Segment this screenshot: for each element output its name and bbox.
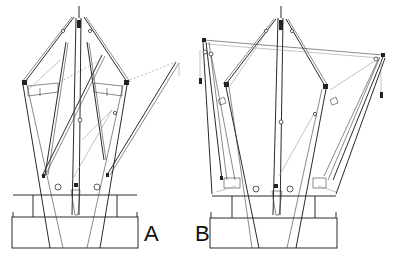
panel-b-rigging xyxy=(216,30,376,192)
panel-b-left-boom xyxy=(199,38,259,194)
panel-b-right-boom xyxy=(287,53,385,194)
panel-b-label: B xyxy=(195,223,210,245)
panel-a-mast xyxy=(71,6,82,215)
crane-drawing xyxy=(0,0,397,254)
panel-b-drawing xyxy=(199,6,385,248)
panel-b-stays xyxy=(204,19,383,86)
panel-a-hull xyxy=(12,195,138,248)
panel-a-label: A xyxy=(144,223,159,245)
panel-b-left-leg xyxy=(224,82,259,248)
panel-b-right-leg xyxy=(287,84,328,248)
panel-b-mast xyxy=(272,6,283,215)
panel-a-drawing xyxy=(12,6,179,248)
